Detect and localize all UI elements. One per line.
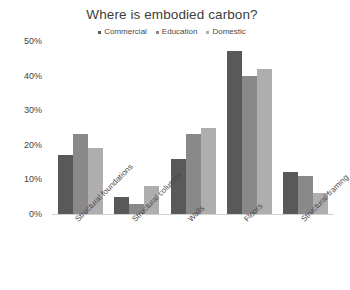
chart-title: Where is embodied carbon?	[0, 7, 344, 22]
legend-swatch-icon	[98, 31, 101, 34]
legend-swatch-icon	[206, 31, 209, 34]
legend-item-domestic[interactable]: Domestic	[206, 28, 245, 36]
bar-group	[52, 41, 108, 214]
legend-label: Education	[162, 28, 198, 36]
bar-group	[108, 41, 164, 214]
y-axis-tick-label: 10%	[24, 175, 42, 184]
bar-group	[165, 41, 221, 214]
bar[interactable]	[257, 69, 272, 214]
bar[interactable]	[227, 51, 242, 214]
bar-group	[278, 41, 334, 214]
y-axis-tick-label: 20%	[24, 140, 42, 149]
bar[interactable]	[201, 128, 216, 215]
bar-group	[221, 41, 277, 214]
y-axis-labels: 50%40%30%20%10%0%	[0, 41, 48, 214]
legend-label: Commercial	[104, 28, 147, 36]
plot-area	[52, 41, 334, 214]
legend-swatch-icon	[156, 31, 159, 34]
legend-item-commercial[interactable]: Commercial	[98, 28, 147, 36]
bar-groups	[52, 41, 334, 214]
x-axis-labels: Structural foundationsStructural columns…	[52, 214, 334, 290]
bar[interactable]	[242, 76, 257, 214]
bar[interactable]	[283, 172, 298, 214]
bar[interactable]	[73, 134, 88, 214]
y-axis-tick-label: 30%	[24, 106, 42, 115]
bar[interactable]	[114, 197, 129, 214]
y-axis-tick-label: 40%	[24, 71, 42, 80]
legend-item-education[interactable]: Education	[156, 28, 198, 36]
y-axis-tick-label: 0%	[29, 210, 42, 219]
bar[interactable]	[58, 155, 73, 214]
legend-label: Domestic	[212, 28, 245, 36]
chart-legend: CommercialEducationDomestic	[0, 28, 344, 36]
bar[interactable]	[186, 134, 201, 214]
y-axis-tick-label: 50%	[24, 37, 42, 46]
